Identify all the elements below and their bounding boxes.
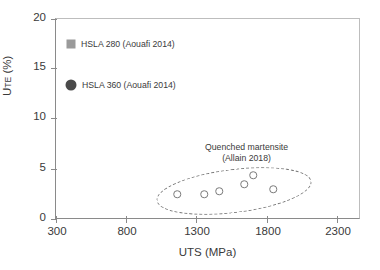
annotation-line-1: Quenched martensite bbox=[205, 142, 288, 153]
data-point-quenched-martensite-5[interactable] bbox=[249, 171, 257, 179]
x-tick-2300: 2300 bbox=[337, 216, 338, 223]
y-tick-label-5: 5 bbox=[40, 162, 46, 174]
data-point-quenched-martensite-4[interactable] bbox=[240, 180, 248, 188]
quenched-martensite-annotation: Quenched martensite (Allain 2018) bbox=[205, 142, 288, 164]
x-tick-label-2300: 2300 bbox=[325, 226, 351, 238]
y-axis-title-unit: (%) bbox=[1, 56, 13, 77]
series-label-hsla-280: HSLA 280 (Aouafi 2014) bbox=[81, 40, 175, 49]
y-axis-title: UTE (%) bbox=[2, 56, 14, 96]
plot-area: 20 15 10 5 0 300 800 1300 1800 2300 bbox=[55, 18, 360, 219]
x-tick-1800: 1800 bbox=[267, 216, 268, 223]
y-tick-10: 10 bbox=[51, 118, 57, 119]
x-tick-300: 300 bbox=[56, 216, 57, 223]
y-tick-label-10: 10 bbox=[33, 111, 46, 123]
y-axis-title-main: U bbox=[1, 88, 13, 96]
x-tick-label-1800: 1800 bbox=[255, 226, 281, 238]
series-label-hsla-360: HSLA 360 (Aouafi 2014) bbox=[82, 81, 176, 90]
x-tick-label-800: 800 bbox=[117, 226, 136, 238]
y-tick-20: 20 bbox=[51, 19, 57, 20]
annotation-line-2: (Allain 2018) bbox=[205, 153, 288, 164]
x-tick-800: 800 bbox=[126, 216, 127, 223]
data-point-quenched-martensite-3[interactable] bbox=[215, 187, 223, 195]
x-tick-1300: 1300 bbox=[196, 216, 197, 223]
x-tick-label-1300: 1300 bbox=[184, 226, 210, 238]
data-point-quenched-martensite-1[interactable] bbox=[173, 190, 181, 198]
data-point-quenched-martensite-2[interactable] bbox=[200, 190, 208, 198]
x-axis-title: UTS (MPa) bbox=[55, 247, 360, 259]
y-tick-15: 15 bbox=[51, 68, 57, 69]
y-tick-label-0: 0 bbox=[40, 212, 46, 224]
data-point-hsla-360[interactable] bbox=[66, 80, 77, 91]
data-point-hsla-280[interactable] bbox=[67, 40, 76, 49]
y-axis-title-subscript: TE bbox=[3, 77, 13, 88]
x-tick-label-300: 300 bbox=[47, 226, 66, 238]
y-tick-5: 5 bbox=[51, 169, 57, 170]
data-point-quenched-martensite-6[interactable] bbox=[269, 185, 277, 193]
y-tick-label-15: 15 bbox=[33, 61, 46, 73]
scatter-chart-figure: UTE (%) UTS (MPa) 20 15 10 5 0 300 800 1… bbox=[0, 0, 380, 270]
y-tick-label-20: 20 bbox=[33, 12, 46, 24]
